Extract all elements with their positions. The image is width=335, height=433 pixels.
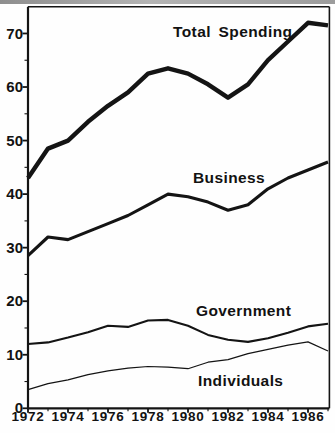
series-line-total-spending	[28, 23, 328, 178]
x-axis-tick-label: 1982	[206, 410, 250, 424]
series-label-individuals: Individuals	[198, 373, 283, 388]
series-label-government: Government	[196, 303, 291, 318]
x-axis-tick-label: 1978	[126, 410, 170, 424]
plot-area	[0, 0, 335, 433]
line-chart-figure: 010203040506070 197219741976197819801982…	[0, 0, 335, 433]
y-axis-tick-label: 20	[0, 292, 23, 310]
y-axis-tick-label: 60	[0, 78, 23, 96]
x-axis-tick-label: 1974	[46, 410, 90, 424]
x-axis-tick-label: 1972	[6, 410, 50, 424]
y-axis-tick-label: 70	[0, 25, 23, 43]
y-axis-tick-label: 10	[0, 346, 23, 364]
x-axis-tick-label: 1984	[246, 410, 290, 424]
series-label-business: Business	[193, 170, 265, 185]
y-axis-tick-label: 40	[0, 185, 23, 203]
series-label-total-spending: Total Spending	[173, 24, 292, 39]
y-axis-tick-label: 50	[0, 132, 23, 150]
series-line-business	[28, 162, 328, 256]
x-axis-tick-label: 1980	[166, 410, 210, 424]
x-axis-tick-label: 1976	[86, 410, 130, 424]
series-line-government	[28, 320, 328, 344]
x-axis-tick-label: 1986	[286, 410, 330, 424]
y-axis-tick-label: 30	[0, 239, 23, 257]
